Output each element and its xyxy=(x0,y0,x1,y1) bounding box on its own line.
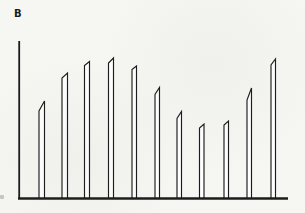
bar-8 xyxy=(200,124,205,199)
bar-4 xyxy=(109,58,114,199)
bar-2 xyxy=(62,73,68,199)
bar-10 xyxy=(247,88,252,199)
bar-7 xyxy=(177,112,182,200)
bar-6 xyxy=(155,88,160,200)
bar-3 xyxy=(85,62,90,200)
bar-1 xyxy=(39,101,45,199)
scan-noise-speck xyxy=(0,195,4,199)
bar-11 xyxy=(271,59,276,199)
bar-chart xyxy=(0,0,305,213)
figure-panel: B xyxy=(0,0,305,213)
bar-5 xyxy=(132,66,137,199)
bar-9 xyxy=(224,121,229,199)
